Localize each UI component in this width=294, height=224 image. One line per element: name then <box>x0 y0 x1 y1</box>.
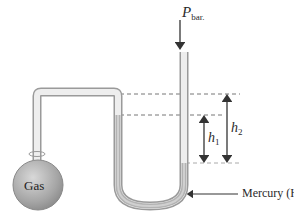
manometer-diagram: Pbar. h1 h2 Mercury (Hg) Gas <box>0 0 294 224</box>
gas-label: Gas <box>24 178 44 194</box>
pressure-label: Pbar. <box>182 4 204 21</box>
mercury-label: Mercury (Hg) <box>242 186 294 201</box>
h2-label: h2 <box>231 120 243 136</box>
mercury-column <box>118 115 184 206</box>
h1-label: h1 <box>208 130 220 146</box>
